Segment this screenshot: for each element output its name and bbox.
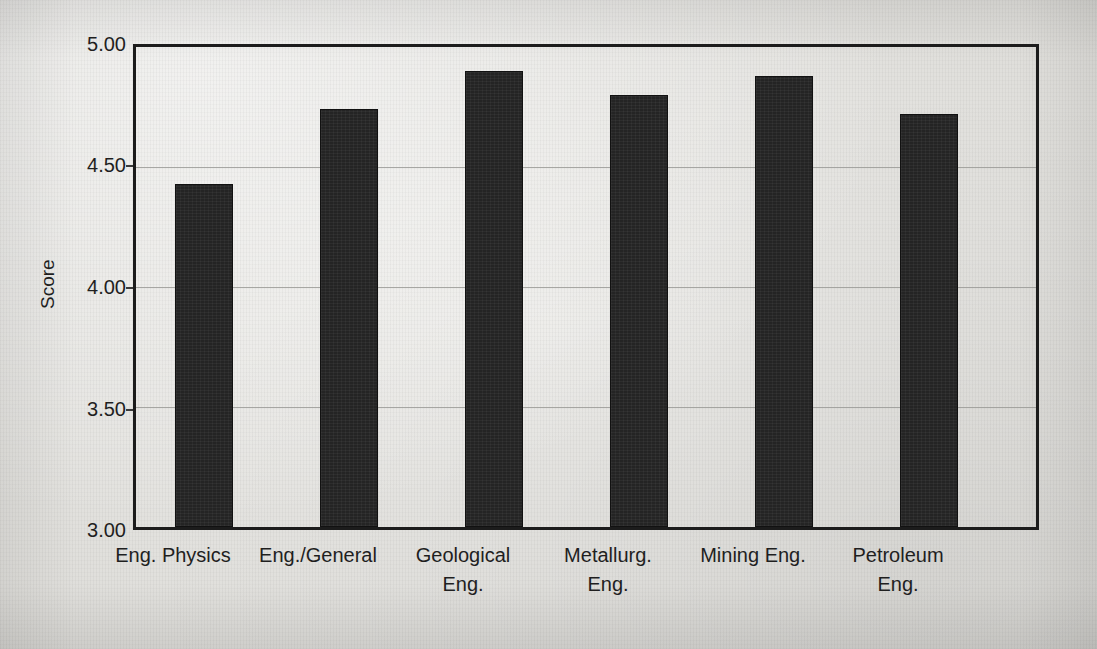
x-tick-label-eng-general: Eng./General xyxy=(247,541,389,570)
x-tick-label-line2: Eng. xyxy=(827,570,969,599)
x-tick-label-line1: Eng./General xyxy=(259,544,377,566)
x-tick-label-metallurg-eng: Metallurg. Eng. xyxy=(537,541,679,599)
bar-petroleum-eng[interactable] xyxy=(900,114,958,527)
bar-eng-physics[interactable] xyxy=(175,184,233,527)
x-tick-label-line1: Geological xyxy=(416,544,511,566)
y-tick-label-4: 4.50 xyxy=(66,155,126,175)
bar-mining-eng[interactable] xyxy=(755,76,813,527)
x-tick-label-line2: Eng. xyxy=(392,570,534,599)
plot-area xyxy=(133,44,1039,530)
y-tick-label-2: 3.50 xyxy=(66,399,126,419)
bar-geological-eng[interactable] xyxy=(465,71,523,527)
bar-metallurg-eng[interactable] xyxy=(610,95,668,527)
x-tick-label-eng-physics: Eng. Physics xyxy=(102,541,244,570)
x-tick-label-line2: Eng. xyxy=(537,570,679,599)
x-tick-label-mining-eng: Mining Eng. xyxy=(682,541,824,570)
x-tick-label-line1: Mining Eng. xyxy=(700,544,806,566)
x-tick-label-line1: Metallurg. xyxy=(564,544,652,566)
y-tick-label-3: 4.00 xyxy=(66,277,126,297)
x-tick-label-petroleum-eng: Petroleum Eng. xyxy=(827,541,969,599)
y-tick-label-1: 3.00 xyxy=(66,520,126,540)
x-tick-label-line1: Petroleum xyxy=(852,544,943,566)
x-tick-label-geological-eng: Geological Eng. xyxy=(392,541,534,599)
y-tick-label-5: 5.00 xyxy=(66,34,126,54)
x-tick-label-line1: Eng. Physics xyxy=(115,544,231,566)
bar-chart: Score 5.00 4.50 4.00 3.50 3.00 Eng. Phys… xyxy=(0,0,1097,649)
bar-eng-general[interactable] xyxy=(320,109,378,527)
